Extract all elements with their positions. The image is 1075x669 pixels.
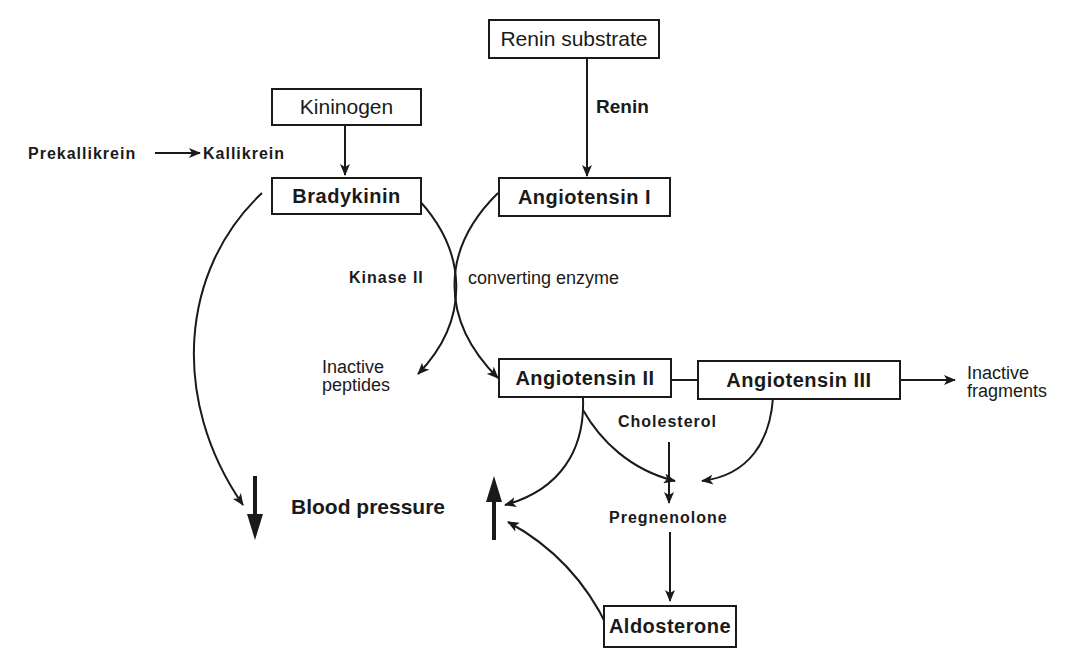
label-kallikrein: Kallikrein	[203, 144, 285, 164]
blood-pressure-increase-icon	[486, 476, 502, 540]
node-kininogen: Kininogen	[271, 88, 422, 126]
label-inactive-peptides-line2: peptides	[322, 375, 390, 395]
node-angiotensin-2: Angiotensin II	[498, 358, 672, 398]
label-blood-pressure: Blood pressure	[291, 497, 445, 517]
node-bradykinin: Bradykinin	[271, 177, 422, 215]
label-converting-enzyme: converting enzyme	[468, 268, 619, 288]
node-renin-substrate: Renin substrate	[488, 19, 660, 59]
label-cholesterol: Cholesterol	[618, 412, 717, 432]
node-aldosterone: Aldosterone	[603, 605, 737, 648]
node-angiotensin-3: Angiotensin III	[697, 360, 901, 400]
blood-pressure-decrease-icon	[247, 476, 263, 540]
label-renin: Renin	[596, 97, 649, 117]
label-pregnenolone: Pregnenolone	[609, 508, 728, 528]
node-angiotensin-1: Angiotensin I	[498, 177, 671, 217]
label-kinase-2: Kinase II	[349, 268, 424, 288]
label-inactive-fragments-line1: Inactive	[967, 363, 1029, 383]
pathway-arrows	[0, 0, 1075, 669]
label-inactive-fragments-line2: fragments	[967, 381, 1047, 401]
label-inactive-peptides-line1: Inactive	[322, 357, 384, 377]
label-prekallikrein: Prekallikrein	[28, 144, 136, 164]
